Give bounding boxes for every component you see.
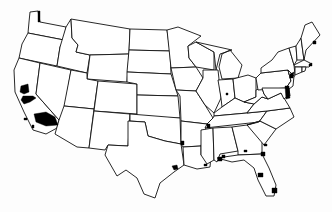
highlighted-area-chesapeake (285, 86, 290, 99)
state-co (94, 81, 137, 114)
highlighted-area-baton-rouge (204, 164, 207, 166)
highlighted-area-shreveport (181, 141, 184, 145)
highlighted-area-tampa (258, 173, 263, 177)
state-ct (295, 67, 302, 75)
highlighted-area-new-orleans (218, 157, 222, 161)
state-ri (302, 67, 306, 72)
highlighted-area-puget-sound (38, 11, 40, 22)
state-sd (127, 50, 171, 74)
us-map (0, 0, 332, 212)
highlighted-area-channel-islands-2 (32, 125, 34, 128)
state-oh (233, 75, 256, 102)
state-nm (89, 111, 130, 150)
state-nd (129, 29, 170, 51)
state-me (301, 22, 320, 60)
highlighted-area-atlanta (244, 150, 247, 152)
states-layer (14, 11, 320, 198)
highlighted-area-memphis (207, 124, 210, 128)
state-ms (201, 128, 214, 164)
state-ks (137, 95, 180, 118)
state-mt (71, 19, 130, 55)
highlighted-area-savannah (261, 152, 265, 156)
state-fl (217, 154, 276, 196)
highlighted-area-indianapolis (226, 93, 228, 95)
state-wy (87, 54, 129, 82)
highlighted-area-maine-coast (313, 41, 316, 44)
highlighted-area-charleston (264, 144, 267, 146)
highlighted-area-miami (272, 188, 277, 193)
us-states-map-svg (0, 0, 332, 212)
highlighted-area-mobile (222, 155, 225, 158)
highlighted-area-channel-islands-1 (24, 118, 27, 120)
